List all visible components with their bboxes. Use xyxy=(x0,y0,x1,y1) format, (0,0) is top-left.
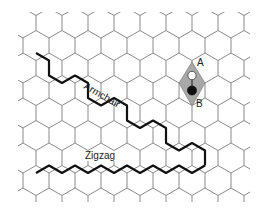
lattice-bond xyxy=(23,211,36,214)
lattice-bond xyxy=(49,53,62,61)
lattice-bond xyxy=(49,98,62,106)
lattice-bond xyxy=(218,211,231,214)
lattice-bond xyxy=(88,211,101,214)
lattice-bond xyxy=(101,76,114,84)
lattice-bond xyxy=(231,76,244,84)
lattice-bond xyxy=(231,121,244,129)
lattice-bond xyxy=(218,31,231,39)
lattice-bond xyxy=(205,98,218,106)
lattice-bond xyxy=(75,8,88,16)
lattice-bond xyxy=(101,8,114,16)
lattice-bond xyxy=(244,53,257,61)
lattice-diagram: Armchair Zigzag A B xyxy=(0,0,268,213)
lattice-bond xyxy=(179,8,192,16)
lattice-bond xyxy=(179,31,192,39)
lattice-bond xyxy=(192,188,205,196)
lattice-bond xyxy=(244,188,257,196)
lattice-bond xyxy=(36,31,49,39)
lattice-bond xyxy=(205,8,218,16)
lattice-bond xyxy=(114,143,127,151)
lattice-bond xyxy=(75,211,88,214)
lattice-bond xyxy=(49,31,62,39)
lattice-bond xyxy=(23,98,36,106)
lattice-bond xyxy=(166,76,179,84)
lattice-bond xyxy=(153,53,166,61)
lattice-bond xyxy=(36,98,49,106)
lattice-bond xyxy=(257,211,268,214)
lattice-bond xyxy=(49,188,62,196)
lattice-bond xyxy=(231,98,244,106)
lattice-bond xyxy=(179,53,192,61)
lattice-bond xyxy=(0,188,10,196)
lattice-bond xyxy=(49,121,62,129)
lattice-bond xyxy=(23,188,36,196)
lattice-bond xyxy=(10,211,23,214)
lattice-bond xyxy=(114,53,127,61)
lattice-bond xyxy=(205,53,218,61)
lattice-bond xyxy=(127,188,140,196)
lattice-bond xyxy=(0,121,10,129)
lattice-bond xyxy=(88,188,101,196)
lattice-bond xyxy=(257,53,268,61)
lattice-bond xyxy=(166,8,179,16)
lattice-bond xyxy=(257,8,268,16)
lattice-bond xyxy=(23,31,36,39)
lattice-bond xyxy=(88,8,101,16)
lattice-bond xyxy=(75,188,88,196)
lattice-bond xyxy=(127,143,140,151)
lattice-bond xyxy=(153,188,166,196)
lattice-bond xyxy=(205,166,218,174)
lattice-bond xyxy=(257,31,268,39)
lattice-bond xyxy=(231,188,244,196)
lattice-bond xyxy=(257,121,268,129)
lattice-bond xyxy=(244,76,257,84)
lattice-bond xyxy=(75,121,88,129)
lattice-bond xyxy=(205,143,218,151)
lattice-bond xyxy=(244,31,257,39)
lattice-bond xyxy=(140,31,153,39)
lattice-bond xyxy=(62,53,75,61)
lattice-bond xyxy=(153,31,166,39)
lattice-bond xyxy=(101,188,114,196)
lattice-bond xyxy=(192,121,205,129)
lattice-bond xyxy=(231,8,244,16)
lattice-bond xyxy=(244,143,257,151)
lattice-bond xyxy=(10,76,23,84)
lattice-bond xyxy=(49,8,62,16)
lattice-bond xyxy=(62,121,75,129)
lattice-bond xyxy=(244,121,257,129)
lattice-bond xyxy=(205,211,218,214)
lattice-bond xyxy=(179,188,192,196)
lattice-bond xyxy=(62,211,75,214)
lattice-bond xyxy=(153,211,166,214)
lattice-bond xyxy=(10,31,23,39)
lattice-bond xyxy=(49,211,62,214)
lattice-bond xyxy=(114,31,127,39)
lattice-bond xyxy=(23,121,36,129)
lattice-bond xyxy=(231,31,244,39)
lattice-bond xyxy=(179,121,192,129)
lattice-bond xyxy=(10,121,23,129)
lattice-bond xyxy=(101,121,114,129)
lattice-bond xyxy=(140,143,153,151)
zigzag-label: Zigzag xyxy=(84,151,116,161)
lattice-bond xyxy=(62,188,75,196)
lattice-bond xyxy=(166,121,179,129)
lattice-bond xyxy=(114,121,127,129)
lattice-bond xyxy=(75,53,88,61)
lattice-bond xyxy=(257,98,268,106)
lattice-bond xyxy=(75,98,88,106)
lattice-bond xyxy=(166,31,179,39)
lattice-bond xyxy=(244,211,257,214)
armchair-edge-path xyxy=(36,53,205,166)
lattice-bond xyxy=(36,121,49,129)
lattice-bond xyxy=(205,188,218,196)
lattice-bond xyxy=(62,143,75,151)
lattice-bond xyxy=(140,211,153,214)
lattice-bond xyxy=(166,188,179,196)
lattice-bond xyxy=(244,98,257,106)
lattice-bond xyxy=(23,53,36,61)
lattice-bond xyxy=(153,98,166,106)
lattice-bond xyxy=(127,8,140,16)
lattice-bond xyxy=(0,53,10,61)
